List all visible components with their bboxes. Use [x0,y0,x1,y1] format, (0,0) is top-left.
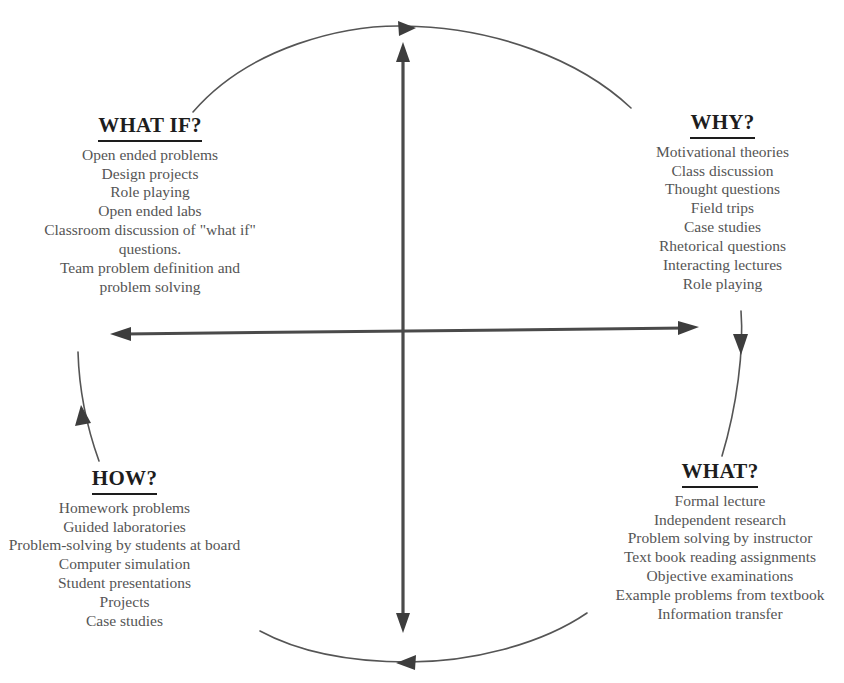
list-item: Objective examinations [596,567,844,586]
list-item: Problem solving by instructor [596,529,844,548]
quadrant-why-title: WHY? [690,110,754,139]
top-arc-arrowhead [398,21,416,36]
top-cycle-arc [193,21,631,112]
list-item: Role playing [0,183,300,202]
quadrant-what-if-title: WHAT IF? [98,113,202,142]
list-item: Thought questions [601,180,844,199]
right-cycle-arc [722,311,748,456]
list-item: Example problems from textbook [596,586,844,605]
list-item: Computer simulation [0,555,249,574]
list-item: Class discussion [601,162,844,181]
list-item: Guided laboratories [0,518,249,537]
list-item: Independent research [596,511,844,530]
list-item: Projects [0,593,249,612]
quadrant-how: HOW? Homework problems Guided laboratori… [0,466,249,631]
list-item: Case studies [601,218,844,237]
diagram-canvas: WHAT IF? Open ended problems Design proj… [0,0,844,683]
quadrant-what: WHAT? Formal lecture Independent researc… [596,459,844,624]
list-item: Field trips [601,199,844,218]
bottom-cycle-arc [260,613,587,670]
list-item: Motivational theories [601,143,844,162]
list-item: Formal lecture [596,492,844,511]
list-item: Case studies [0,612,249,631]
top-arc-path [193,26,631,112]
quadrant-what-if-list: Open ended problems Design projects Role… [0,146,300,297]
list-item: Interacting lectures [601,256,844,275]
bottom-arc-path [260,613,587,662]
list-item: Text book reading assignments [596,548,844,567]
quadrant-what-list: Formal lecture Independent research Prob… [596,492,844,624]
vertical-axis-up-arrowhead [396,42,410,62]
list-item: Information transfer [596,605,844,624]
list-item: Student presentations [0,574,249,593]
quadrant-why: WHY? Motivational theories Class discuss… [601,110,844,294]
list-item: Classroom discussion of "what if" questi… [25,221,275,259]
horizontal-axis-line [124,328,686,334]
right-arc-path [722,311,742,456]
list-item: Design projects [0,165,300,184]
quadrant-why-list: Motivational theories Class discussion T… [601,143,844,294]
bottom-arc-arrowhead [396,655,416,670]
list-item: Team problem definition and problem solv… [45,259,255,297]
list-item: Open ended labs [0,202,300,221]
quadrant-what-if: WHAT IF? Open ended problems Design proj… [0,113,300,297]
horizontal-axis-right-arrowhead [678,321,699,335]
quadrant-what-title: WHAT? [682,459,759,488]
quadrant-how-title: HOW? [92,466,157,495]
left-cycle-arc [75,352,99,461]
horizontal-axis-left-arrowhead [110,327,131,341]
list-item: Rhetorical questions [601,237,844,256]
list-item: Open ended problems [0,146,300,165]
left-arc-arrowhead [75,405,91,426]
list-item: Problem-solving by students at board [0,536,249,555]
list-item: Role playing [601,275,844,294]
quadrant-how-list: Homework problems Guided laboratories Pr… [0,499,249,631]
list-item: Homework problems [0,499,249,518]
vertical-axis [396,42,410,633]
right-arc-arrowhead [733,334,748,355]
vertical-axis-down-arrowhead [396,613,410,633]
